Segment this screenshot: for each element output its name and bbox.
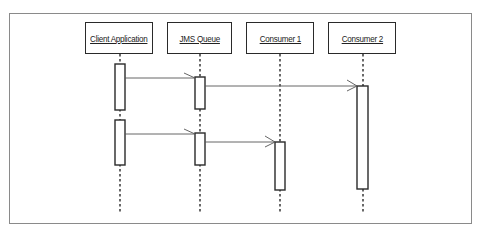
activation-consumer1	[275, 142, 285, 190]
activation-queue-1	[195, 77, 205, 109]
activation-consumer2	[357, 86, 368, 189]
sequence-graphics	[0, 0, 482, 230]
arrowhead-open	[184, 73, 195, 78]
activation-queue-2	[195, 133, 205, 165]
arrowhead-open	[184, 129, 195, 134]
activation-client-1	[115, 64, 125, 110]
arrowhead-open	[265, 136, 275, 147]
arrowhead-open	[347, 80, 357, 91]
activation-client-2	[115, 120, 125, 165]
